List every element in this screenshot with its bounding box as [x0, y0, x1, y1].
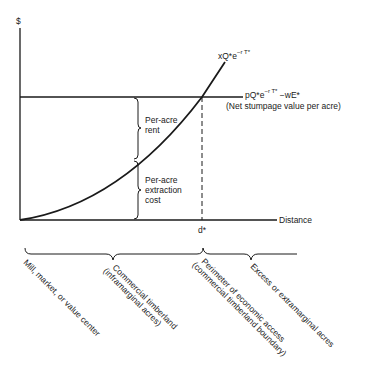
critical-distance-label: d*	[198, 225, 207, 235]
y-axis-label: $	[16, 16, 21, 26]
svg-text:pQ*e−r T* −wE*: pQ*e−r T* −wE*	[245, 88, 301, 100]
svg-text:extraction: extraction	[145, 185, 182, 195]
svg-text:(inframarginal acres): (inframarginal acres)	[101, 266, 163, 328]
region-label-perimeter: Perimeter of economic access (commercial…	[190, 254, 295, 359]
svg-text:(Net stumpage value per acre): (Net stumpage value per acre)	[226, 101, 341, 111]
svg-text:Perimeter of economic access: Perimeter of economic access	[200, 256, 288, 344]
svg-text:cost: cost	[145, 195, 161, 205]
net-stumpage-label: pQ*e−r T* −wE* (Net stumpage value per a…	[226, 88, 341, 111]
extraction-cost-label: Per-acre extraction cost	[145, 175, 182, 205]
svg-text:xQ*e−r T*: xQ*e−r T*	[218, 49, 251, 61]
extraction-cost-curve	[20, 62, 225, 220]
rent-brace	[134, 98, 141, 159]
svg-text:Mill, market, or value center: Mill, market, or value center	[22, 257, 103, 338]
curve-label: xQ*e−r T*	[218, 49, 251, 61]
region-label-mill: Mill, market, or value center	[22, 257, 103, 338]
svg-text:rent: rent	[145, 125, 160, 135]
land-rent-diagram: $ Distance pQ*e−r T* −wE* (Net stumpage …	[0, 0, 365, 391]
extraction-cost-brace	[134, 161, 141, 219]
svg-text:Per-acre: Per-acre	[145, 115, 178, 125]
region-label-commercial-timberland: Commercial timberland (inframarginal acr…	[101, 260, 179, 338]
region-brace	[25, 248, 297, 260]
svg-text:Per-acre: Per-acre	[145, 175, 178, 185]
x-axis-label: Distance	[279, 215, 312, 225]
svg-text:Commercial timberland: Commercial timberland	[111, 262, 180, 331]
svg-text:(commercial timberland boundar: (commercial timberland boundary)	[190, 260, 288, 358]
